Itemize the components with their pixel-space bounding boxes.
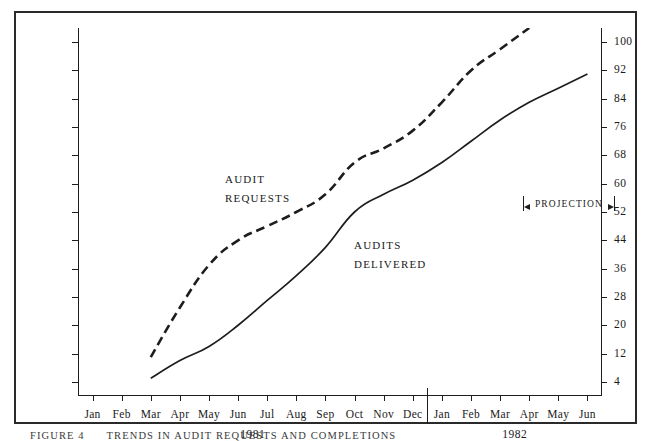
y-tick-label-right-76: 76: [614, 121, 626, 133]
y-tick-label-right-44: 44: [614, 234, 626, 246]
audits-delivered-label-line-2: DELIVERED: [354, 255, 427, 274]
audit-requests-label-line-1: AUDIT: [225, 170, 290, 189]
x-tick-label-jun-5: Jun: [230, 409, 247, 421]
y-tick-label-right-52: 52: [614, 206, 626, 218]
projection-label: PROJECTION: [523, 197, 615, 211]
y-tick-label-right-28: 28: [614, 291, 626, 303]
figure-frame: 4412122020282836364444525260606868767684…: [14, 11, 637, 424]
y-tick-label-right-100: 100: [614, 36, 632, 48]
x-tick-label-mar-14: Mar: [490, 409, 510, 421]
series-label-audit-requests: AUDITREQUESTS: [225, 170, 290, 208]
year-label-1982: 1982: [502, 429, 527, 441]
x-tick-label-aug-7: Aug: [286, 409, 307, 421]
x-tick-label-nov-10: Nov: [373, 409, 394, 421]
x-tick-label-dec-11: Dec: [403, 409, 422, 421]
x-tick-label-jul-6: Jul: [260, 409, 274, 421]
projection-annotation: PROJECTION: [523, 196, 615, 213]
y-tick-label-right-60: 60: [614, 178, 626, 190]
series-label-audits-delivered: AUDITSDELIVERED: [354, 236, 427, 274]
y-tick-label-right-12: 12: [614, 348, 626, 360]
x-tick-label-feb-13: Feb: [462, 409, 480, 421]
y-tick-label-right-36: 36: [614, 263, 626, 275]
series-line-audit-requests: [151, 28, 529, 357]
y-tick-label-right-84: 84: [614, 93, 626, 105]
x-tick-label-feb-1: Feb: [113, 409, 131, 421]
x-tick-label-sep-8: Sep: [316, 409, 334, 421]
figure-caption-text: TRENDS IN AUDIT REQUESTS AND COMPLETIONS: [107, 430, 397, 441]
y-tick-label-right-68: 68: [614, 149, 626, 161]
series-line-audits-delivered: [151, 74, 588, 378]
x-tick-label-may-4: May: [198, 409, 220, 421]
x-tick-label-apr-3: Apr: [170, 409, 189, 421]
x-tick-label-jun-17: Jun: [579, 409, 596, 421]
x-tick-label-jan-12: Jan: [434, 409, 450, 421]
figure-caption-number: FIGURE 4: [30, 430, 85, 441]
x-tick-label-oct-9: Oct: [346, 409, 364, 421]
x-tick-label-jan-0: Jan: [84, 409, 100, 421]
y-tick-label-right-20: 20: [614, 319, 626, 331]
x-tick-label-mar-2: Mar: [141, 409, 161, 421]
y-tick-label-right-92: 92: [614, 64, 626, 76]
audits-delivered-label-line-1: AUDITS: [354, 236, 427, 255]
figure-caption: FIGURE 4TRENDS IN AUDIT REQUESTS AND COM…: [30, 430, 396, 441]
x-tick-label-apr-15: Apr: [520, 409, 539, 421]
audit-requests-label-line-2: REQUESTS: [225, 189, 290, 208]
chart-plot-area: 4412122020282836364444525260606868767684…: [78, 28, 602, 396]
y-tick-label-right-4: 4: [614, 376, 620, 388]
x-tick-label-may-16: May: [547, 409, 569, 421]
